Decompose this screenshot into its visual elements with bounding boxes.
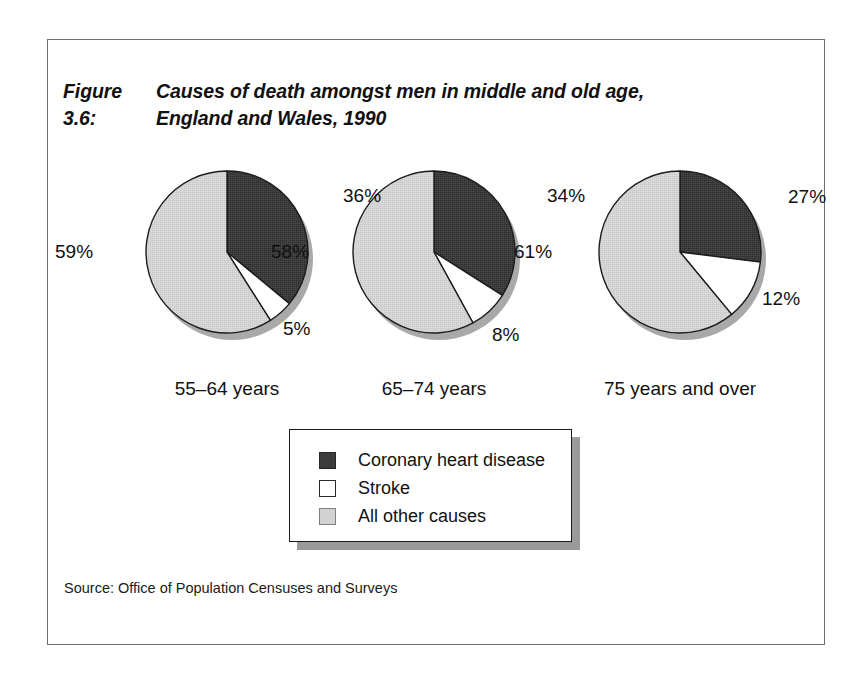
pie-percent-label: 58% [271,241,309,263]
source-note: Source: Office of Population Censuses an… [64,580,397,596]
legend-label-stroke: Stroke [358,478,410,499]
pie-percent-label: 61% [514,241,552,263]
figure-number-label: Figure 3.6: [63,78,156,132]
pie-percent-label: 27% [788,186,826,208]
pie-category-label-0: 55–64 years [117,378,337,400]
pie-percent-label: 34% [547,185,585,207]
legend-item-coronary-heart-disease[interactable]: Coronary heart disease [319,446,545,474]
legend-swatch-white-icon [319,480,336,497]
legend-label-coronary-heart-disease: Coronary heart disease [358,450,545,471]
pie-percent-label: 36% [343,185,381,207]
figure-title-text: Causes of death amongst men in middle an… [156,78,716,132]
legend-item-stroke[interactable]: Stroke [319,474,545,502]
legend-box: Coronary heart disease Stroke All other … [289,429,572,542]
legend-label-all-other-causes: All other causes [358,506,486,527]
pie-category-label-2: 75 years and over [570,378,790,400]
legend-item-all-other-causes[interactable]: All other causes [319,502,545,530]
pie-percent-label: 59% [55,241,93,263]
figure-title-line2: England and Wales, 1990 [156,107,386,129]
legend-swatch-lightgray-icon [319,508,336,525]
pie-percent-label: 5% [283,318,310,340]
pie-percent-label: 8% [492,324,519,346]
legend-swatch-dark-icon [319,452,336,469]
figure-title: Figure 3.6:Causes of death amongst men i… [63,78,753,132]
figure-title-line1: Causes of death amongst men in middle an… [156,80,644,102]
pie-percent-label: 12% [762,288,800,310]
pie-category-label-1: 65–74 years [324,378,544,400]
legend-items: Coronary heart disease Stroke All other … [319,446,545,530]
